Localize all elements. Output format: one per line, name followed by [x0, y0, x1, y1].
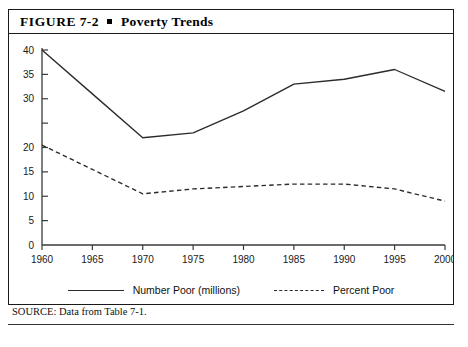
x-axis-tick-label: 1970 [132, 254, 155, 265]
figure-label: FIGURE [20, 14, 76, 29]
y-axis-tick-label: 20 [23, 142, 35, 153]
y-axis-tick-label: 0 [28, 240, 34, 251]
bullet-square-icon [107, 19, 112, 24]
x-axis-tick-label: 2000 [434, 254, 453, 265]
figure-number: 7-2 [80, 14, 99, 29]
x-axis-tick-label: 1965 [81, 254, 104, 265]
x-axis-tick-label: 1995 [384, 254, 407, 265]
y-axis-tick-label: 40 [23, 45, 35, 56]
legend-item-percent-poor: Percent Poor [274, 284, 394, 296]
page-title: FIGURE 7-2 Poverty Trends [9, 14, 213, 30]
series-line-number-poor [42, 50, 445, 138]
x-axis-tick-label: 1985 [283, 254, 306, 265]
figure-source: SOURCE: Data from Table 7-1. [8, 305, 454, 329]
legend-swatch-dashed-icon [274, 290, 324, 291]
x-axis-tick-label: 1990 [333, 254, 356, 265]
y-axis-tick-label: 10 [23, 191, 35, 202]
legend-item-number-poor: Number Poor (millions) [68, 284, 240, 296]
figure-body: 4035302015105019601965197019751980198519… [8, 34, 454, 305]
figure-title-bar: FIGURE 7-2 Poverty Trends [8, 9, 454, 34]
x-axis-tick-label: 1960 [31, 254, 54, 265]
x-axis-tick-label: 1975 [182, 254, 205, 265]
figure-container: FIGURE 7-2 Poverty Trends 40353020151050… [8, 9, 454, 329]
source-text: SOURCE: Data from Table 7-1. [8, 305, 454, 317]
legend-label-percent-poor: Percent Poor [333, 284, 394, 296]
source-divider [8, 324, 454, 325]
y-axis-tick-label: 15 [23, 166, 35, 177]
series-line-percent-poor [42, 145, 445, 201]
legend-swatch-solid-icon [68, 290, 124, 291]
y-axis-tick-label: 35 [23, 69, 35, 80]
y-axis-tick-label: 5 [28, 215, 34, 226]
chart-plot-area: 4035302015105019601965197019751980198519… [9, 34, 453, 280]
y-axis-tick-label: 30 [23, 93, 35, 104]
chart-legend: Number Poor (millions) Percent Poor [9, 284, 453, 296]
x-axis-tick-label: 1980 [232, 254, 255, 265]
poverty-trends-line-chart: 4035302015105019601965197019751980198519… [9, 34, 453, 280]
figure-title-text: Poverty Trends [121, 14, 213, 29]
legend-label-number-poor: Number Poor (millions) [133, 284, 240, 296]
